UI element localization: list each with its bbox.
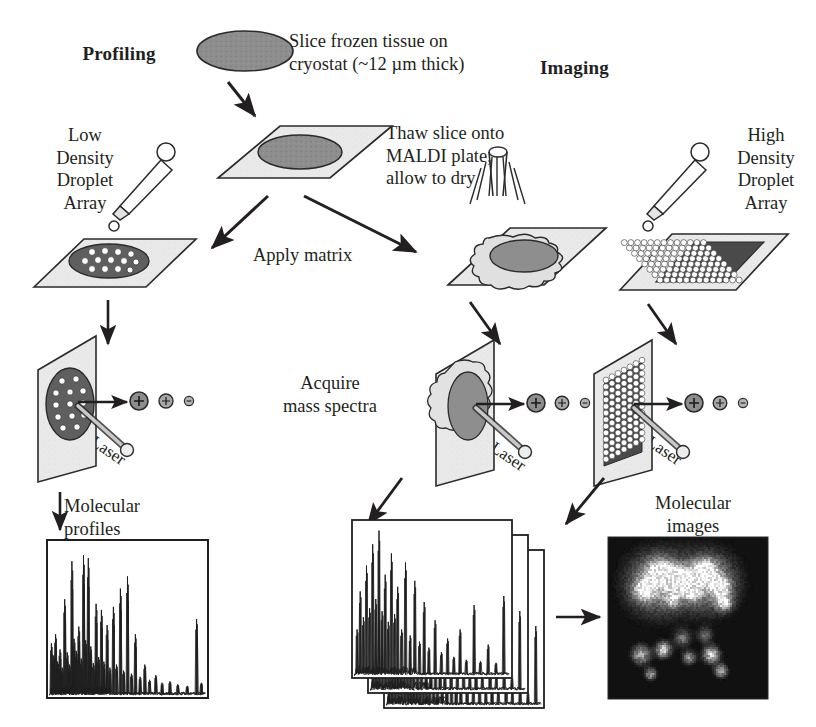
ions-center (527, 394, 590, 412)
label-molecular-images: Molecular images (608, 492, 778, 537)
tissue-slice-top (197, 31, 293, 71)
heading-profiling: Profiling (54, 42, 184, 65)
plate-high-density-array (620, 234, 788, 290)
figure-canvas: Profiling Imaging Slice frozen tissue on… (0, 0, 816, 727)
ions-right (685, 394, 748, 412)
label-laser-left: Laser (87, 432, 129, 470)
arrow-slice-to-plate (228, 82, 255, 116)
plate-low-density-array (34, 239, 196, 287)
label-laser-middle: Laser (487, 438, 529, 476)
pipette-high-density (643, 143, 709, 231)
chart-molecular-image (608, 537, 768, 699)
label-molecular-profiles: Molecular profiles (64, 495, 224, 540)
diagram-graphics (0, 0, 816, 727)
arrow-right-to-laser (648, 304, 676, 344)
arrow-center-to-stack (368, 478, 402, 524)
chart-molecular-profiles (47, 540, 208, 698)
label-laser-right: Laser (643, 432, 685, 470)
arrow-apply-matrix-left (212, 196, 268, 248)
label-thaw-slice: Thaw slice onto MALDI plate, allow to dr… (386, 122, 576, 190)
label-high-density-array: High Density Droplet Array (716, 124, 816, 214)
arrow-right-to-stack (566, 478, 604, 524)
label-low-density-array: Low Density Droplet Array (30, 124, 140, 214)
arrow-center-to-laser (470, 302, 500, 344)
plate-tissue-with-matrix (448, 228, 606, 289)
label-apply-matrix: Apply matrix (253, 244, 433, 267)
plate-with-tissue (218, 126, 392, 178)
ions-left (130, 392, 194, 410)
label-slice-tissue: Slice frozen tissue on cryostat (~12 µm … (289, 30, 609, 75)
label-acquire-mass-spectra: Acquire mass spectra (240, 372, 420, 417)
chart-stacked-spectra (352, 520, 544, 708)
